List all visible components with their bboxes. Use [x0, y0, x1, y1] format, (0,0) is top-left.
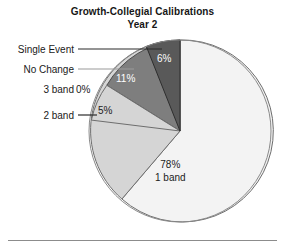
slice-value-2-band: 5%: [98, 104, 112, 117]
slice-value-no-change: 11%: [116, 72, 135, 85]
label-3-band: 3 band: [43, 85, 74, 95]
pie-graphic: [0, 0, 285, 249]
slice-value-1-band-name: 1 band: [155, 172, 186, 183]
footer-divider: [8, 240, 277, 241]
label-no-change: No Change: [23, 65, 74, 75]
label-3-band-value: 0%: [76, 85, 90, 95]
slice-value-1-band-pct: 78%: [160, 159, 180, 170]
label-2-band: 2 band: [43, 111, 74, 121]
label-single-event: Single Event: [18, 45, 74, 55]
slice-value-single-event: 6%: [157, 52, 171, 65]
pie-chart-figure: Growth-Collegial Calibrations Year 2 Sin…: [0, 0, 285, 249]
slice-value-1-band: 78% 1 band: [155, 158, 186, 184]
